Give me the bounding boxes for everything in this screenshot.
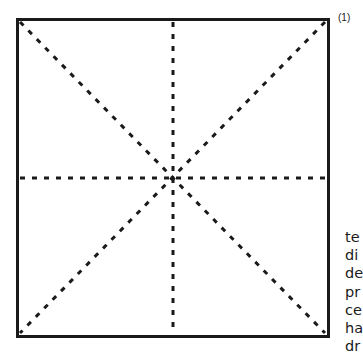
instruction-text: te di de pr ce ha dr — [345, 228, 363, 355]
instruction-line: dr — [345, 337, 363, 355]
instruction-line: ce — [345, 301, 363, 319]
step-number-label: (1) — [338, 12, 350, 23]
instruction-line: di — [345, 246, 363, 264]
instruction-line: ha — [345, 319, 363, 337]
instruction-line: de — [345, 264, 363, 282]
instruction-line: te — [345, 228, 363, 246]
instruction-line: pr — [345, 283, 363, 301]
